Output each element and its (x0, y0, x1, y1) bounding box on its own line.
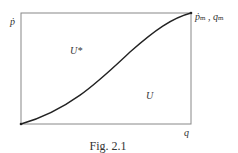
region-lower-label: U (146, 91, 153, 101)
corner-label: ṗm , qm (195, 12, 223, 22)
origin-point (20, 123, 23, 126)
diagram-canvas (0, 0, 238, 153)
corner-point (190, 12, 193, 15)
y-axis-label: ṗ (10, 17, 15, 27)
figure-caption: Fig. 2.1 (0, 140, 216, 152)
boundary-curve (21, 13, 191, 124)
frame (21, 13, 191, 124)
region-upper-label: U* (70, 46, 82, 56)
corner-label-sub-2: m (218, 14, 223, 22)
corner-label-sep: , (205, 11, 213, 22)
x-axis-label: q (184, 128, 189, 138)
